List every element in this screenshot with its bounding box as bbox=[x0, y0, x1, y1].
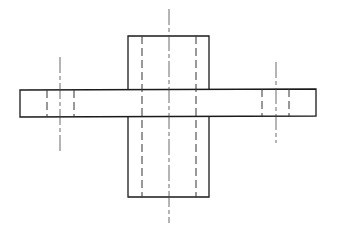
technical-drawing bbox=[0, 0, 338, 233]
right-hole bbox=[262, 62, 289, 143]
horizontal-plate-outline bbox=[20, 89, 316, 117]
left-hole bbox=[47, 57, 74, 152]
vertical-block-top-outline bbox=[128, 36, 209, 90]
vertical-block-bottom-outline bbox=[128, 116, 209, 197]
